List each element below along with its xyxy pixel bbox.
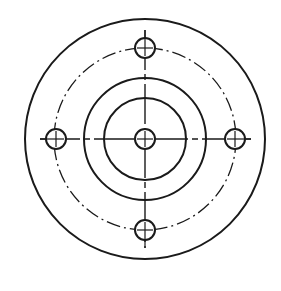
bolt-hole-top [135, 38, 155, 58]
bolt-hole-right [225, 129, 245, 149]
drawing-canvas [0, 0, 281, 291]
flange-drawing [0, 0, 281, 291]
bolt-hole-left [46, 129, 66, 149]
center-hole [135, 129, 155, 149]
bolt-hole-bottom [135, 220, 155, 240]
